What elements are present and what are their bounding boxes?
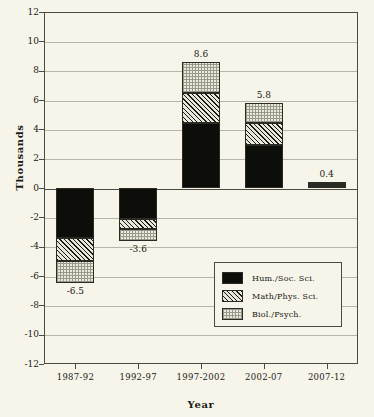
- bar-value-label: 8.6: [166, 49, 236, 59]
- x-axis-tick-label: 2007-12: [287, 372, 367, 382]
- y-axis-tick-mark: [39, 364, 44, 365]
- y-axis-tick-label: 4: [3, 125, 39, 134]
- y-axis-tick-label: 10: [3, 37, 39, 46]
- y-axis-tick-mark: [39, 276, 44, 277]
- solid-black-swatch-icon: [222, 272, 243, 284]
- y-axis-tick-mark: [39, 305, 44, 306]
- gridline: [45, 42, 357, 43]
- y-axis-tick-label: 8: [3, 66, 39, 75]
- y-axis-tick-label: 12: [3, 8, 39, 17]
- bar-segment[interactable]: [308, 186, 346, 188]
- y-axis-tick-label: -8: [3, 301, 39, 310]
- bar-segment[interactable]: [182, 93, 220, 124]
- bar-value-label: 0.4: [292, 169, 362, 179]
- y-axis-tick-label: -10: [3, 330, 39, 339]
- bar-segment[interactable]: [56, 261, 94, 283]
- bar-segment[interactable]: [56, 238, 94, 261]
- bar-segment[interactable]: [308, 182, 346, 184]
- bar-segment[interactable]: [182, 62, 220, 93]
- y-axis-tick-mark: [39, 100, 44, 101]
- x-axis-title: Year: [44, 399, 358, 410]
- diagonal-hatch-swatch-icon: [222, 290, 243, 302]
- y-axis-tick-label: -12: [3, 360, 39, 369]
- y-axis-tick-label: 6: [3, 96, 39, 105]
- y-axis-tick-mark: [39, 247, 44, 248]
- legend-item[interactable]: Biol./Psych.: [222, 305, 335, 323]
- y-axis-tick-mark: [39, 217, 44, 218]
- x-axis-tick-mark: [201, 364, 202, 369]
- y-axis-tick-label: 0: [3, 184, 39, 193]
- y-axis-tick-mark: [39, 159, 44, 160]
- y-axis-tick-mark: [39, 71, 44, 72]
- bar-value-label: 5.8: [229, 90, 299, 100]
- x-axis-tick-mark: [75, 364, 76, 369]
- dotted-swatch-icon: [222, 308, 243, 320]
- bar-segment[interactable]: [245, 103, 283, 124]
- legend-box: Hum./Soc. Sci. Math/Phys. Sci. Biol./Psy…: [214, 262, 342, 327]
- bar-value-label: -3.6: [103, 244, 173, 254]
- y-axis-tick-mark: [39, 41, 44, 42]
- bar-segment[interactable]: [119, 229, 157, 241]
- y-axis-tick-mark: [39, 12, 44, 13]
- bar-value-label: -6.5: [40, 286, 110, 296]
- chart-figure: Thousands 121086420-2-4-6-8-10-12 1987-9…: [0, 0, 374, 417]
- bar-segment[interactable]: [182, 123, 220, 188]
- bar-segment[interactable]: [245, 123, 283, 145]
- bar-segment[interactable]: [245, 145, 283, 188]
- legend-item-label: Biol./Psych.: [252, 310, 301, 319]
- gridline: [45, 335, 357, 336]
- legend-item-label: Math/Phys. Sci.: [252, 292, 318, 301]
- y-axis-tick-label: 2: [3, 154, 39, 163]
- x-axis-tick-mark: [264, 364, 265, 369]
- bar-segment[interactable]: [119, 188, 157, 219]
- y-axis-tick-mark: [39, 335, 44, 336]
- x-axis-tick-mark: [138, 364, 139, 369]
- legend-item[interactable]: Hum./Soc. Sci.: [222, 269, 335, 287]
- legend-item[interactable]: Math/Phys. Sci.: [222, 287, 335, 305]
- legend-item-label: Hum./Soc. Sci.: [252, 274, 315, 283]
- bar-segment[interactable]: [56, 188, 94, 238]
- y-axis-tick-mark: [39, 129, 44, 130]
- y-axis-tick-label: -4: [3, 242, 39, 251]
- y-axis-tick-label: -6: [3, 272, 39, 281]
- y-axis-tick-label: -2: [3, 213, 39, 222]
- x-axis-tick-mark: [327, 364, 328, 369]
- y-axis-tick-mark: [39, 188, 44, 189]
- bar-segment[interactable]: [119, 219, 157, 229]
